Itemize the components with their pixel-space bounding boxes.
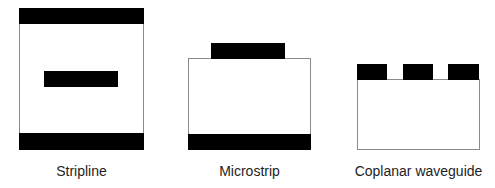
microstrip-ground-plane [188, 134, 311, 150]
stripline-top-ground-plane [19, 8, 144, 24]
stripline-label: Stripline [19, 163, 144, 179]
cpw-label: Coplanar waveguide [349, 163, 488, 179]
stripline-bottom-ground-plane [19, 133, 144, 150]
cpw-right-ground-conductor [448, 64, 479, 80]
cpw-center-conductor [403, 64, 433, 80]
microstrip-top-conductor [211, 43, 285, 59]
stripline-center-conductor [44, 71, 118, 87]
microstrip-label: Microstrip [188, 163, 311, 179]
cpw-left-ground-conductor [357, 64, 387, 80]
cpw-substrate [357, 79, 480, 150]
